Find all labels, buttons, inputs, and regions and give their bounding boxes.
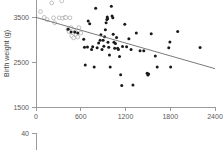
data-point-filled (113, 47, 116, 50)
data-point-filled (108, 54, 111, 57)
data-point-open (79, 31, 83, 35)
data-points-group (39, 0, 202, 87)
data-point-filled (73, 30, 76, 33)
x-tick-label: 0 (34, 113, 38, 120)
y-axis-title: Birth weight (g) (3, 30, 11, 77)
data-point-filled (93, 65, 96, 68)
data-point-filled (139, 49, 142, 52)
data-point-filled (84, 64, 87, 67)
data-point-filled (156, 65, 159, 68)
data-point-open (64, 16, 68, 20)
data-point-filled (94, 7, 97, 10)
scatter-plot: 0600120018002400150025003500Birth weight… (0, 0, 223, 150)
data-point-filled (106, 17, 109, 20)
data-point-open (76, 35, 80, 39)
data-point-filled (112, 33, 115, 36)
data-point-filled (104, 28, 107, 31)
bottom-panel-group: 40 (21, 130, 36, 151)
data-point-filled (130, 48, 133, 51)
data-point-filled (121, 45, 124, 48)
data-point-filled (106, 41, 109, 44)
x-tick-label: 2400 (207, 113, 223, 120)
data-point-filled (119, 73, 122, 76)
data-point-filled (88, 22, 91, 25)
data-point-filled (102, 39, 105, 42)
bottom-panel-tick-label: 40 (21, 130, 29, 137)
data-point-filled (147, 73, 150, 76)
data-point-filled (107, 46, 110, 49)
data-point-filled (111, 16, 114, 19)
data-point-open (39, 10, 43, 14)
data-point-filled (101, 48, 104, 51)
data-point-filled (135, 31, 138, 34)
data-point-filled (199, 46, 202, 49)
data-point-filled (127, 37, 130, 40)
x-tick-label: 1800 (162, 113, 178, 120)
y-tick-label: 1500 (13, 104, 29, 111)
data-point-filled (86, 46, 89, 49)
data-point-filled (97, 42, 100, 45)
data-point-filled (168, 40, 171, 43)
data-point-filled (87, 19, 90, 22)
data-point-filled (99, 39, 102, 42)
data-point-filled (82, 38, 85, 41)
data-point-filled (142, 49, 145, 52)
data-point-filled (96, 46, 99, 49)
data-point-filled (120, 84, 123, 87)
data-point-filled (131, 83, 134, 86)
data-point-filled (114, 42, 117, 45)
data-point-filled (70, 30, 73, 33)
data-point-filled (102, 45, 105, 48)
data-point-open (60, 0, 64, 3)
data-point-filled (117, 48, 120, 51)
data-point-filled (150, 32, 153, 35)
data-point-filled (115, 36, 118, 39)
data-point-filled (167, 46, 170, 49)
figure-container: 0600120018002400150025003500Birth weight… (0, 0, 223, 150)
x-tick-label: 1200 (118, 113, 134, 120)
data-point-filled (169, 65, 172, 68)
data-point-open (68, 16, 72, 20)
data-point-filled (91, 45, 94, 48)
data-point-filled (110, 5, 113, 8)
y-tick-label: 2500 (13, 59, 29, 66)
data-point-filled (105, 21, 108, 24)
x-tick-label: 600 (75, 113, 87, 120)
data-point-open (52, 16, 56, 20)
data-point-filled (83, 46, 86, 49)
data-point-filled (76, 31, 79, 34)
data-point-filled (125, 45, 128, 48)
data-point-filled (176, 30, 179, 33)
data-point-open (50, 1, 54, 5)
data-point-filled (67, 28, 70, 31)
y-tick-label: 3500 (13, 14, 29, 21)
data-point-filled (123, 23, 126, 26)
data-point-filled (118, 55, 121, 58)
data-point-filled (154, 54, 157, 57)
data-point-filled (109, 65, 112, 68)
data-point-filled (90, 48, 93, 51)
